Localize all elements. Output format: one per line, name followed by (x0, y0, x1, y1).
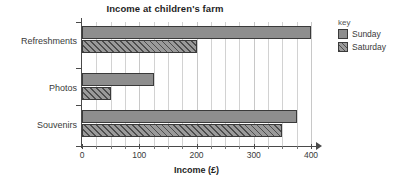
x-tick-major (139, 144, 140, 149)
y-axis-line (81, 18, 82, 148)
x-tick-minor (96, 146, 97, 149)
bar-souvenirs-saturday (82, 124, 282, 137)
x-tick-minor (125, 146, 126, 149)
bar-chart: Income at children's farm RefreshmentsPh… (0, 0, 406, 186)
x-axis-title: Income (£) (82, 165, 311, 175)
y-tick (76, 105, 82, 106)
legend-item-sunday[interactable]: Sunday (338, 29, 404, 39)
x-tick-major (254, 144, 255, 149)
bar-photos-saturday (82, 87, 111, 100)
y-tick (76, 22, 82, 23)
x-tick-major (197, 144, 198, 149)
x-tick-minor (239, 146, 240, 149)
x-tick-minor (168, 146, 169, 149)
x-tick-minor (297, 146, 298, 149)
x-tick-label-0: 0 (80, 150, 85, 160)
x-tick-minor (268, 146, 269, 149)
bar-photos-sunday (82, 73, 154, 86)
x-tick-minor (154, 146, 155, 149)
category-label-refreshments: Refreshments (21, 36, 77, 46)
gridline (282, 22, 283, 146)
legend-label-saturday: Saturday (352, 42, 386, 52)
legend: key Sunday Saturday (338, 18, 404, 55)
legend-swatch-sunday-icon (338, 29, 348, 39)
category-label-photos: Photos (49, 83, 77, 93)
x-axis-arrow-icon (316, 142, 322, 150)
x-tick-major (311, 144, 312, 149)
legend-label-sunday: Sunday (352, 29, 381, 39)
gridline (311, 22, 312, 146)
x-tick-major (82, 144, 83, 149)
bar-refreshments-sunday (82, 26, 311, 39)
legend-item-saturday[interactable]: Saturday (338, 42, 404, 52)
x-tick-label-400: 400 (304, 150, 318, 160)
x-tick-minor (111, 146, 112, 149)
legend-swatch-saturday-icon (338, 42, 348, 52)
category-label-souvenirs: Souvenirs (37, 120, 77, 130)
x-tick-minor (182, 146, 183, 149)
gridline (297, 22, 298, 146)
x-tick-label-200: 200 (189, 150, 203, 160)
x-tick-label-100: 100 (132, 150, 146, 160)
x-tick-minor (211, 146, 212, 149)
y-tick (76, 68, 82, 69)
legend-title: key (338, 18, 404, 27)
x-tick-minor (282, 146, 283, 149)
x-tick-minor (225, 146, 226, 149)
bar-souvenirs-sunday (82, 110, 297, 123)
bar-refreshments-saturday (82, 40, 197, 53)
x-tick-label-300: 300 (247, 150, 261, 160)
chart-title: Income at children's farm (0, 3, 330, 14)
